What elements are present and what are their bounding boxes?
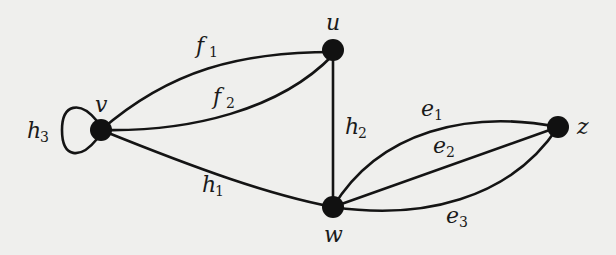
node-label-u: u	[326, 10, 340, 35]
svg-text:e: e	[433, 133, 446, 158]
node-v	[90, 119, 112, 141]
node-w	[322, 196, 344, 218]
svg-text:e: e	[446, 203, 459, 228]
svg-text:1: 1	[434, 107, 443, 123]
svg-text:f: f	[194, 33, 208, 58]
node-label-v: v	[95, 92, 108, 117]
edge-label-e3: e 3	[446, 203, 468, 230]
svg-text:f: f	[211, 84, 225, 109]
edge-label-h2: h 2	[345, 114, 367, 141]
svg-text:e: e	[421, 96, 434, 121]
node-label-z: z	[576, 114, 589, 139]
svg-text:2: 2	[446, 144, 455, 160]
svg-text:2: 2	[358, 125, 367, 141]
svg-text:3: 3	[40, 129, 49, 145]
edge-label-e1: e 1	[421, 96, 443, 123]
svg-text:2: 2	[226, 95, 235, 111]
edge-label-f1: f 1	[194, 33, 218, 60]
svg-text:3: 3	[459, 214, 468, 230]
edge-label-f2: f 2	[211, 84, 235, 111]
node-z	[547, 116, 569, 138]
node-label-w: w	[324, 222, 343, 247]
svg-text:1: 1	[215, 183, 224, 199]
svg-text:1: 1	[209, 44, 218, 60]
graph-diagram: v u w z f 1 f 2 h 3 h 1 h 2 e 1 e 2 e 3	[0, 0, 616, 255]
edge-label-e2: e 2	[433, 133, 455, 160]
edge-label-h3: h 3	[27, 118, 49, 145]
node-u	[322, 39, 344, 61]
